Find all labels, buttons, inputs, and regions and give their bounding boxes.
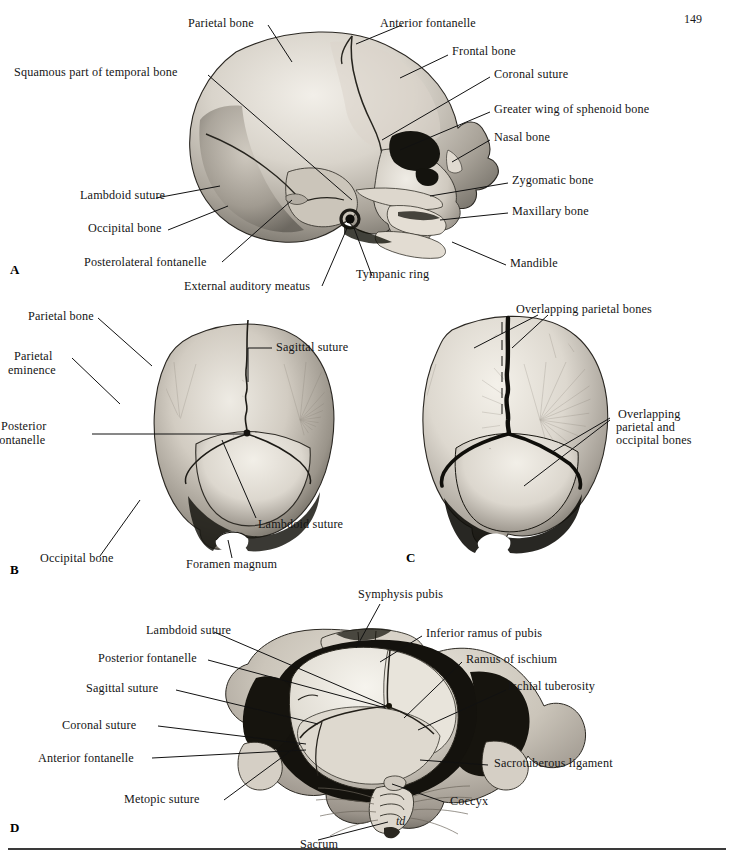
label-c-overlapping-line3: occipital bones	[616, 434, 692, 448]
label-a-mandible: Mandible	[510, 257, 558, 271]
label-a-coronal-suture: Coronal suture	[494, 68, 568, 82]
label-b-lambdoid-suture: Lambdoid suture	[258, 518, 343, 532]
label-c-overlapping-parietal-bones: Overlapping parietal bones	[516, 303, 652, 317]
label-d-coccyx: Coccyx	[450, 795, 488, 809]
label-a-maxillary-bone: Maxillary bone	[512, 205, 589, 219]
label-a-parietal-bone: Parietal bone	[188, 17, 254, 31]
label-a-anterior-fontanelle: Anterior fontanelle	[380, 17, 476, 31]
panel-c-illustration	[412, 306, 616, 560]
label-d-sacrotuberous-ligament: Sacrotuberous ligament	[494, 757, 613, 771]
label-d-ramus-of-ischium: Ramus of ischium	[466, 653, 557, 667]
panel-letter-b: B	[10, 562, 19, 578]
label-d-sagittal-suture: Sagittal suture	[86, 682, 158, 696]
label-d-coronal-suture: Coronal suture	[62, 719, 136, 733]
label-b-posterior-fontanelle-line1: Posterior	[1, 420, 46, 434]
plate-page: 149 td A B C D Parietal bone Anterior fo…	[0, 0, 734, 860]
label-b-sagittal-suture: Sagittal suture	[276, 341, 348, 355]
label-a-frontal-bone: Frontal bone	[452, 45, 516, 59]
label-a-zygomatic-bone: Zygomatic bone	[512, 174, 594, 188]
label-a-greater-wing-of-sphenoid-bone: Greater wing of sphenoid bone	[494, 103, 649, 117]
label-d-lambdoid-suture: Lambdoid suture	[146, 624, 231, 638]
label-b-parietal-bone: Parietal bone	[28, 310, 94, 324]
label-d-sacrum: Sacrum	[300, 838, 338, 852]
label-b-parietal-eminence-line2: eminence	[8, 364, 56, 378]
label-b-posterior-fontanelle-line2: fontanelle	[0, 434, 45, 448]
label-d-anterior-fontanelle: Anterior fontanelle	[38, 752, 134, 766]
label-d-symphysis-pubis: Symphysis pubis	[358, 588, 443, 602]
label-a-tympanic-ring: Tympanic ring	[356, 268, 429, 282]
artist-signature: td	[396, 814, 405, 829]
panel-letter-a: A	[10, 262, 19, 278]
panel-letter-c: C	[406, 550, 415, 566]
label-b-occipital-bone: Occipital bone	[40, 552, 114, 566]
label-a-external-auditory-meatus: External auditory meatus	[184, 280, 310, 294]
label-d-inferior-ramus-of-pubis: Inferior ramus of pubis	[426, 627, 542, 641]
label-a-occipital-bone: Occipital bone	[88, 222, 162, 236]
label-d-posterior-fontanelle: Posterior fontanelle	[98, 652, 197, 666]
label-b-parietal-eminence-line1: Parietal	[14, 350, 52, 364]
label-a-posterolateral-fontanelle: Posterolateral fontanelle	[84, 256, 207, 270]
folio-number: 149	[684, 12, 702, 27]
label-d-metopic-suture: Metopic suture	[124, 793, 200, 807]
label-b-foramen-magnum: Foramen magnum	[186, 558, 277, 572]
footer-rule	[8, 848, 726, 850]
label-a-lambdoid-suture: Lambdoid suture	[80, 189, 165, 203]
label-a-squamous-part-of-temporal-bone: Squamous part of temporal bone	[14, 66, 178, 80]
panel-a-illustration	[186, 28, 498, 266]
panel-letter-d: D	[10, 820, 19, 836]
label-a-nasal-bone: Nasal bone	[494, 131, 550, 145]
label-d-ischial-tuberosity: Ischial tuberosity	[508, 680, 595, 694]
